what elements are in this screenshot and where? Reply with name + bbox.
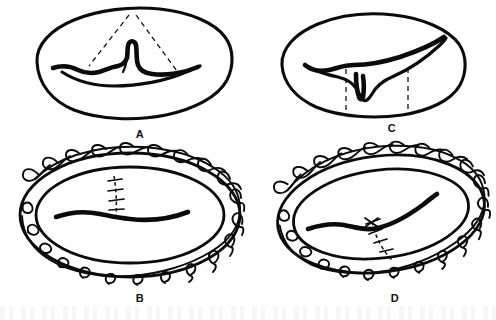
scan-bleed-artifact <box>0 306 496 320</box>
panel-label-b: B <box>130 292 150 304</box>
panel-b-drawing <box>14 146 246 284</box>
panel-d-drawing <box>272 146 490 282</box>
panel-a-drawing <box>26 4 240 124</box>
running-locked-suture-d <box>270 129 496 291</box>
panel-b <box>14 146 246 284</box>
panel-c-drawing <box>272 10 472 122</box>
outer-ring-d <box>271 144 492 284</box>
figure-root: A C <box>0 0 496 320</box>
panel-c <box>272 10 472 122</box>
panel-label-d: D <box>385 292 405 304</box>
defect-line-b <box>56 212 188 220</box>
guide-line-left-a <box>89 15 129 66</box>
guide-line-right-a <box>136 15 177 71</box>
panel-label-c: C <box>382 122 402 134</box>
panel-label-a: A <box>130 128 150 140</box>
panel-a <box>26 4 240 124</box>
central-notch-c <box>356 74 364 99</box>
cross-stitch-knot-d <box>365 218 378 227</box>
panel-d <box>272 146 490 282</box>
defect-lower-edge-a <box>62 66 200 86</box>
defect-line-c <box>305 37 444 71</box>
vertical-stitch-line-b <box>108 176 124 218</box>
organ-outline-a <box>37 8 232 119</box>
